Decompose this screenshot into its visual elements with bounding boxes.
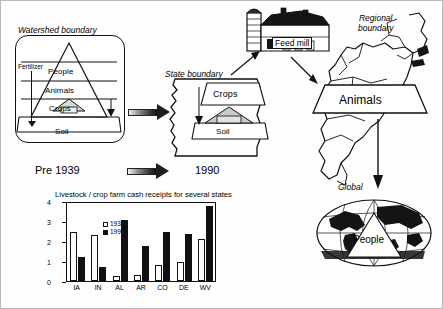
chart-bar-group xyxy=(198,206,213,281)
chart-bar-IA-1990 xyxy=(78,257,85,281)
chart-bar-IA-1933 xyxy=(70,232,77,281)
chart-bar-group xyxy=(91,235,106,281)
chart-y-tickmark xyxy=(62,242,66,243)
chart-bar-IN-1990 xyxy=(99,267,106,281)
chart-bar-IN-1933 xyxy=(91,235,98,281)
era-label-pre-1939: Pre 1939 xyxy=(35,164,80,176)
state-soil-label: Soil xyxy=(216,127,230,136)
chart-bar-CO-1933 xyxy=(155,265,162,281)
bar-chart: Livestock / crop farm cash receipts for … xyxy=(37,190,227,302)
regional-to-global-arrow xyxy=(369,119,387,191)
chart-bar-group xyxy=(155,232,170,281)
chart-bar-WV-1933 xyxy=(198,239,205,281)
chart-bar-DE-1933 xyxy=(177,262,184,282)
tier-label-soil: Soil xyxy=(55,127,69,136)
chart-bar-DE-1990 xyxy=(185,234,192,281)
chart-y-tickmark xyxy=(62,262,66,263)
chart-x-label-IN: IN xyxy=(95,284,102,291)
chart-y-tickmark xyxy=(62,282,66,283)
chart-bar-group xyxy=(134,246,149,281)
chart-y-tickmark xyxy=(62,202,66,203)
global-caption: Global xyxy=(338,182,363,192)
watershed-boundary-caption: Watershed boundary xyxy=(18,25,97,35)
chart-bar-AL-1933 xyxy=(113,276,120,281)
block-arrow-era xyxy=(127,163,169,179)
chart-bar-CO-1990 xyxy=(163,232,170,281)
chart-x-label-IA: IA xyxy=(73,284,80,291)
chart-x-label-AR: AR xyxy=(136,284,146,291)
chart-bar-group xyxy=(113,220,128,281)
fertilizer-arrow-shaft xyxy=(31,71,32,123)
chart-x-label-WV: WV xyxy=(200,284,211,291)
era-label-1990: 1990 xyxy=(195,164,219,176)
fertilizer-label: Fertilizer xyxy=(18,63,43,70)
global-people-label: People xyxy=(353,234,384,245)
chart-x-label-DE: DE xyxy=(179,284,189,291)
chart-bar-group xyxy=(177,234,192,281)
globe-illustration xyxy=(315,197,433,269)
chart-bar-AR-1933 xyxy=(134,275,141,281)
chart-bar-AR-1990 xyxy=(142,246,149,281)
chart-plot-area: 1933 1990 xyxy=(66,202,216,282)
animals-label: Animals xyxy=(339,93,382,107)
chart-bar-group xyxy=(70,232,85,281)
chart-x-label-AL: AL xyxy=(115,284,124,291)
tier-label-animals: Animals xyxy=(45,86,74,95)
chart-x-label-CO: CO xyxy=(157,284,168,291)
legend-swatch-1990 xyxy=(103,230,108,235)
chart-bar-AL-1990 xyxy=(121,220,128,281)
chart-y-tickmark xyxy=(62,222,66,223)
chart-bar-WV-1990 xyxy=(206,206,213,281)
tier-label-people: People xyxy=(48,67,74,76)
legend-swatch-1933 xyxy=(103,222,108,227)
figure-canvas: Watershed boundary People Animals Crops … xyxy=(0,0,443,309)
tier-label-crops: Crops xyxy=(49,104,71,113)
fertilizer-arrow-head xyxy=(28,121,36,127)
chart-title: Livestock / crop farm cash receipts for … xyxy=(55,190,232,199)
